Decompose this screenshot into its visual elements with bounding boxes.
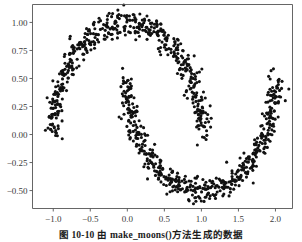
data-point — [129, 131, 132, 134]
data-point — [198, 70, 201, 73]
data-point — [266, 93, 269, 96]
data-point — [187, 57, 190, 60]
data-point — [132, 124, 135, 127]
data-point — [273, 101, 276, 104]
data-point — [189, 88, 192, 91]
data-point — [176, 172, 179, 175]
data-point — [111, 38, 114, 41]
data-point — [93, 41, 96, 44]
data-point — [167, 34, 170, 37]
data-point — [147, 33, 150, 36]
data-point — [60, 83, 63, 86]
data-point — [114, 20, 117, 23]
data-point — [167, 177, 170, 180]
data-point — [93, 47, 96, 50]
data-point — [270, 128, 273, 131]
data-point — [185, 90, 188, 93]
data-point — [264, 137, 267, 140]
data-point — [198, 108, 201, 111]
data-point — [197, 102, 200, 105]
data-point — [206, 192, 209, 195]
data-point — [129, 31, 132, 34]
data-point — [87, 29, 90, 32]
data-point — [135, 126, 138, 129]
data-point — [256, 137, 259, 140]
x-tick-label: 1.0 — [196, 214, 208, 224]
data-point — [127, 79, 130, 82]
data-point — [258, 149, 261, 152]
data-point — [85, 49, 88, 52]
data-point — [267, 75, 270, 78]
data-point — [137, 31, 140, 34]
data-point — [83, 40, 86, 43]
data-point — [57, 124, 60, 127]
data-point — [262, 147, 265, 150]
data-point — [259, 125, 262, 128]
data-point — [124, 25, 127, 28]
data-point — [89, 43, 92, 46]
data-point — [196, 175, 199, 178]
data-point — [55, 116, 58, 119]
data-point — [205, 117, 208, 120]
data-point — [76, 47, 79, 50]
data-point — [194, 200, 197, 203]
data-point — [175, 56, 178, 59]
data-point — [277, 83, 280, 86]
data-point — [221, 194, 224, 197]
data-point — [223, 183, 226, 186]
data-point — [245, 172, 248, 175]
data-point — [99, 28, 102, 31]
data-point — [51, 79, 54, 82]
data-point — [178, 184, 181, 187]
data-point — [252, 151, 255, 154]
data-point — [180, 55, 183, 58]
data-point — [262, 127, 265, 130]
data-point — [189, 70, 192, 73]
data-point — [58, 72, 61, 75]
data-point — [172, 37, 175, 40]
data-point — [132, 26, 135, 29]
data-point — [156, 34, 159, 37]
data-point — [233, 179, 236, 182]
data-point — [215, 177, 218, 180]
data-point — [89, 32, 92, 35]
data-point — [111, 33, 114, 36]
data-point — [149, 22, 152, 25]
data-point — [181, 49, 184, 52]
x-tick-label: 1.5 — [233, 214, 245, 224]
data-point — [193, 105, 196, 108]
data-point — [261, 112, 264, 115]
data-point — [128, 18, 131, 21]
x-tick-label: 0.5 — [159, 214, 171, 224]
data-point — [237, 184, 240, 187]
data-point — [138, 35, 141, 38]
data-point — [104, 29, 107, 32]
data-point — [273, 110, 276, 113]
data-point — [159, 172, 162, 175]
data-point — [159, 53, 162, 56]
data-point — [82, 58, 85, 61]
data-point — [155, 31, 158, 34]
data-point — [277, 100, 280, 103]
data-point — [237, 176, 240, 179]
data-point — [165, 193, 168, 196]
data-point — [244, 160, 247, 163]
data-point — [277, 115, 280, 118]
data-point — [53, 125, 56, 128]
data-point — [192, 202, 195, 205]
data-point — [253, 138, 256, 141]
data-point — [134, 38, 137, 41]
data-point — [271, 86, 274, 89]
data-point — [263, 152, 266, 155]
scatter-plot-panel: −1.0−0.50.00.51.01.52.0 1.000.750.500.25… — [0, 0, 302, 228]
data-point — [253, 160, 256, 163]
data-point — [197, 195, 200, 198]
data-point — [164, 177, 167, 180]
data-point — [137, 25, 140, 28]
data-point — [229, 191, 232, 194]
data-point — [144, 134, 147, 137]
data-point — [164, 43, 167, 46]
data-point — [259, 134, 262, 137]
y-tick-label: 0.00 — [12, 130, 28, 140]
data-point — [270, 69, 273, 72]
